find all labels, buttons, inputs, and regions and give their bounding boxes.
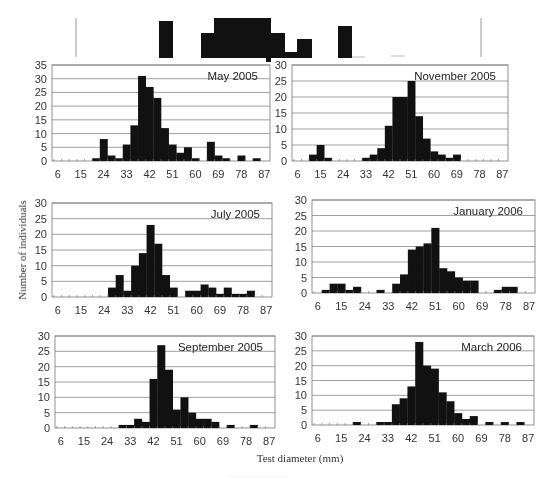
svg-text:33: 33 [120, 168, 132, 180]
histogram-bar [345, 290, 353, 293]
histogram-bar [165, 370, 173, 428]
svg-text:5: 5 [301, 404, 307, 416]
svg-text:60: 60 [194, 435, 206, 447]
histogram-bar [445, 158, 453, 161]
histogram-bar [239, 294, 247, 297]
histogram-bar [115, 158, 123, 161]
histogram-bar [516, 422, 524, 425]
svg-text:10: 10 [38, 391, 50, 403]
svg-text:15: 15 [75, 168, 87, 180]
histogram-bar [176, 153, 184, 161]
svg-text:15: 15 [335, 300, 347, 312]
histogram-bar [416, 247, 424, 294]
svg-text:24: 24 [98, 304, 110, 316]
histogram-bar [510, 287, 518, 293]
histogram-bar [108, 288, 116, 297]
histogram-bar [139, 253, 147, 297]
histogram-bar [462, 419, 470, 425]
svg-text:15: 15 [335, 432, 347, 444]
y-axis-label: Number of individuals [16, 200, 28, 300]
panel-title: September 2005 [178, 341, 263, 353]
svg-text:0: 0 [301, 287, 307, 299]
svg-text:69: 69 [214, 304, 226, 316]
histogram-bar [309, 155, 317, 161]
histogram-bar [485, 422, 493, 425]
svg-text:5: 5 [281, 139, 287, 151]
histogram-bar [253, 158, 261, 161]
histogram-bar [216, 294, 224, 297]
histogram-bar [317, 145, 325, 161]
histogram-bar [247, 291, 255, 297]
svg-text:25: 25 [38, 345, 50, 357]
svg-text:60: 60 [191, 304, 203, 316]
histogram-bar [430, 151, 438, 161]
histogram-bar [184, 147, 192, 161]
histogram-bar [446, 401, 454, 425]
histogram-bar [161, 128, 169, 161]
histogram-bar [353, 287, 361, 293]
histogram-bar [231, 294, 239, 297]
svg-text:6: 6 [315, 432, 321, 444]
histogram-bar [423, 366, 431, 425]
histogram-bar [453, 155, 461, 161]
histogram-bar [400, 398, 408, 425]
histogram-bar [324, 158, 332, 161]
svg-text:15: 15 [35, 244, 47, 256]
svg-text:60: 60 [452, 432, 464, 444]
histogram-bar [126, 425, 134, 428]
histogram-bar [237, 156, 245, 161]
histogram-bar [222, 158, 230, 161]
x-axis-label: Test diameter (mm) [257, 452, 344, 464]
svg-text:51: 51 [405, 168, 417, 180]
svg-text:10: 10 [295, 389, 307, 401]
svg-text:24: 24 [358, 432, 370, 444]
svg-text:51: 51 [170, 435, 182, 447]
svg-text:69: 69 [451, 168, 463, 180]
histogram-bar [353, 422, 361, 425]
histogram-bar [501, 422, 509, 425]
histogram-bar [408, 81, 416, 161]
histogram-bar [362, 158, 370, 161]
svg-text:5: 5 [301, 272, 307, 284]
histogram-bar [502, 287, 510, 293]
svg-text:5: 5 [41, 275, 47, 287]
svg-text:51: 51 [429, 300, 441, 312]
svg-text:78: 78 [237, 304, 249, 316]
svg-text:5: 5 [41, 141, 47, 153]
svg-text:20: 20 [38, 361, 50, 373]
histogram-bar [447, 271, 455, 293]
histogram-bar [196, 419, 204, 428]
svg-text:30: 30 [35, 73, 47, 85]
svg-text:20: 20 [35, 228, 47, 240]
histogram-bar [494, 290, 502, 293]
svg-text:78: 78 [235, 168, 247, 180]
svg-text:42: 42 [144, 304, 156, 316]
svg-text:60: 60 [428, 168, 440, 180]
histogram-bar [377, 148, 385, 161]
svg-text:6: 6 [58, 435, 64, 447]
histogram-bar [431, 228, 439, 293]
svg-text:6: 6 [55, 168, 61, 180]
svg-text:51: 51 [167, 304, 179, 316]
histogram-bar [147, 225, 155, 297]
svg-text:60: 60 [189, 168, 201, 180]
cropped-figure-fragment [0, 0, 549, 62]
svg-text:42: 42 [406, 300, 418, 312]
panel-title: May 2005 [207, 70, 258, 82]
svg-text:42: 42 [147, 435, 159, 447]
histogram-bar [204, 419, 212, 428]
svg-text:87: 87 [258, 168, 270, 180]
histogram-bar [130, 125, 138, 161]
histogram-bar [454, 413, 462, 425]
svg-text:33: 33 [121, 304, 133, 316]
svg-text:42: 42 [383, 168, 395, 180]
histogram-bar [322, 290, 330, 293]
histogram-bar [423, 139, 431, 161]
svg-text:24: 24 [98, 168, 110, 180]
svg-text:25: 25 [35, 213, 47, 225]
histogram-bar [153, 98, 161, 161]
histogram-bar [250, 425, 258, 428]
svg-text:20: 20 [275, 91, 287, 103]
histogram-bar [208, 288, 216, 297]
histogram-bar [227, 425, 235, 428]
